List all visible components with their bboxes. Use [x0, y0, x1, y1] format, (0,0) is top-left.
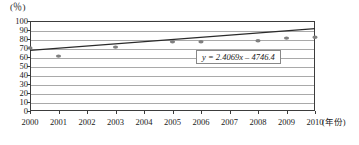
x-axis-title: (年份) [322, 117, 346, 127]
gridline [31, 67, 314, 68]
x-axis-tick-label: 2002 [79, 117, 96, 127]
x-axis-tick-mark [59, 111, 60, 114]
gridline [31, 103, 314, 104]
x-axis-tick-mark [87, 111, 88, 114]
y-axis-unit-label: (％) [10, 2, 26, 12]
x-axis-tick-marks [30, 111, 315, 115]
x-axis-tick-mark [230, 111, 231, 114]
x-axis-tick-label: 2000 [22, 117, 39, 127]
gridline [31, 40, 314, 41]
y-axis-tick-labels: 1009080706050403020100 [0, 21, 28, 111]
x-axis-tick-label: 2009 [278, 117, 295, 127]
x-axis-tick-mark [287, 111, 288, 114]
x-axis-tick-mark [258, 111, 259, 114]
gridline [31, 76, 314, 77]
x-axis-tick-label: 2006 [193, 117, 210, 127]
x-axis-tick-label: 2003 [107, 117, 124, 127]
x-axis-tick-label: 2004 [136, 117, 153, 127]
x-axis-tick-label: 2010 [307, 117, 324, 127]
x-axis-tick-label: 2007 [221, 117, 238, 127]
plot-area [30, 21, 315, 111]
gridline [31, 85, 314, 86]
gridline [31, 31, 314, 32]
x-axis-tick-mark [116, 111, 117, 114]
trendline-equation-label: y = 2.4069x – 4746.4 [196, 50, 281, 64]
x-axis-tick-label: 2008 [250, 117, 267, 127]
x-axis-tick-mark [315, 111, 316, 114]
x-axis-tick-mark [144, 111, 145, 114]
x-axis-tick-mark [173, 111, 174, 114]
gridline [31, 94, 314, 95]
x-axis-tick-labels: 2000200120022003200420052006200720082009… [30, 117, 315, 131]
x-axis-tick-mark [201, 111, 202, 114]
x-axis-tick-mark [30, 111, 31, 114]
x-axis-tick-label: 2001 [50, 117, 67, 127]
chart-figure: (％) 1009080706050403020100 2000200120022… [0, 0, 359, 145]
y-axis-tick-label: 0 [2, 107, 28, 116]
x-axis-tick-label: 2005 [164, 117, 181, 127]
